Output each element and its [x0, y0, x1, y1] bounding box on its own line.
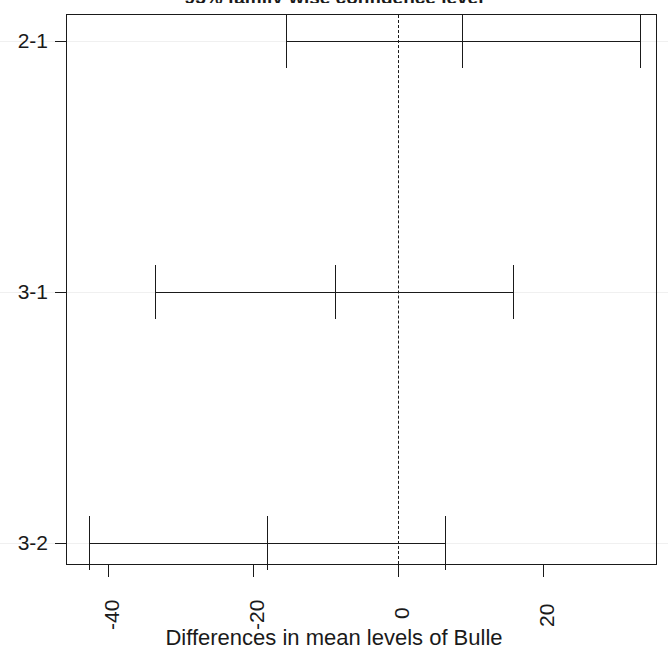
interval-upper-cap-3-1 [513, 265, 514, 319]
interval-lower-cap-3-1 [155, 265, 156, 319]
x-axis-tick-label-20: 20 [535, 604, 559, 627]
x-axis-tick--20 [253, 565, 254, 577]
x-axis-tick-label-0: 0 [390, 607, 414, 619]
y-axis-tick-2-1 [55, 41, 66, 42]
interval-upper-cap-3-2 [445, 516, 446, 570]
interval-bar-2-1 [286, 41, 640, 42]
y-axis-tick-3-2 [55, 543, 66, 544]
y-axis-tick-3-1 [55, 292, 66, 293]
x-axis-title: Differences in mean levels of Bulle [0, 625, 668, 651]
chart-title-fragment: 95% family-wise confidence level [0, 0, 668, 3]
interval-lower-cap-3-2 [89, 516, 90, 570]
y-axis-label-3-2: 3-2 [0, 531, 48, 555]
zero-reference-line [398, 15, 399, 564]
interval-lower-cap-2-1 [286, 14, 287, 68]
confidence-interval-chart: 95% family-wise confidence level 2-1 3-1… [0, 0, 668, 653]
x-axis-tick-0 [398, 565, 399, 577]
interval-bar-3-1 [155, 292, 513, 293]
interval-center-marker-3-1 [335, 265, 336, 319]
interval-center-marker-2-1 [462, 14, 463, 68]
interval-upper-cap-2-1 [640, 14, 641, 68]
interval-center-marker-3-2 [267, 516, 268, 570]
y-axis-label-2-1: 2-1 [0, 29, 48, 53]
y-axis-label-3-1: 3-1 [0, 280, 48, 304]
x-axis-tick-20 [543, 565, 544, 577]
x-axis-tick--40 [108, 565, 109, 577]
